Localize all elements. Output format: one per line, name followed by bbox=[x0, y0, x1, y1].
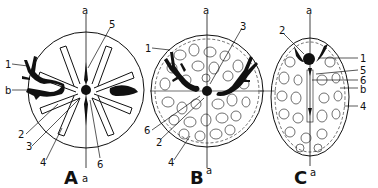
panel-a: 1 b 2 3 4 5 6 a a A bbox=[5, 5, 144, 188]
panel-a-label-5: 5 bbox=[109, 19, 115, 30]
panel-c-caption: C bbox=[294, 167, 307, 188]
panel-a-label-2: 2 bbox=[18, 129, 24, 140]
panel-b-axis-bottom: a bbox=[206, 165, 212, 176]
panel-a-label-b: b bbox=[5, 85, 11, 96]
panel-a-spindle-top bbox=[84, 62, 88, 84]
panel-c-label-2: 2 bbox=[279, 25, 285, 36]
panel-b-label-6: 6 bbox=[144, 125, 150, 136]
panel-c-left-horn bbox=[294, 46, 304, 62]
panel-c-label-4: 4 bbox=[360, 101, 366, 112]
panel-c-label-1: 1 bbox=[360, 53, 366, 64]
panel-a-caption: A bbox=[64, 167, 78, 188]
panel-b-label-3: 3 bbox=[240, 21, 246, 32]
panel-a-label-4: 4 bbox=[40, 157, 46, 168]
panel-b-caption: B bbox=[190, 167, 204, 188]
panel-b-label-4: 4 bbox=[168, 157, 174, 168]
panel-b-axis-top: a bbox=[203, 5, 209, 16]
panel-a-axis-top: a bbox=[82, 5, 88, 16]
panel-b-label-1: 1 bbox=[145, 43, 151, 54]
panel-c-label-b: b bbox=[360, 84, 366, 95]
panel-b-label-2: 2 bbox=[156, 137, 162, 148]
panel-c: 2 1 5 6 b 4 a a C bbox=[260, 5, 366, 188]
panel-a-center bbox=[81, 85, 91, 95]
diagram-canvas: 1 b 2 3 4 5 6 a a A bbox=[0, 0, 378, 188]
panel-b-center bbox=[202, 86, 212, 96]
panel-a-label-1: 1 bbox=[5, 59, 11, 70]
panel-a-label-3: 3 bbox=[26, 141, 32, 152]
panel-c-axis-bottom: a bbox=[310, 167, 316, 178]
panel-a-spindle-bottom bbox=[84, 96, 88, 126]
panel-c-right-horn bbox=[316, 44, 328, 62]
panel-b: 1 2 3 4 6 a a B bbox=[144, 5, 264, 188]
panel-c-axis-top: a bbox=[306, 5, 312, 16]
panel-c-center bbox=[303, 53, 315, 65]
panel-a-label-6: 6 bbox=[97, 159, 103, 170]
panel-a-axis-bottom: a bbox=[82, 173, 88, 184]
panel-a-right-root bbox=[110, 85, 138, 96]
